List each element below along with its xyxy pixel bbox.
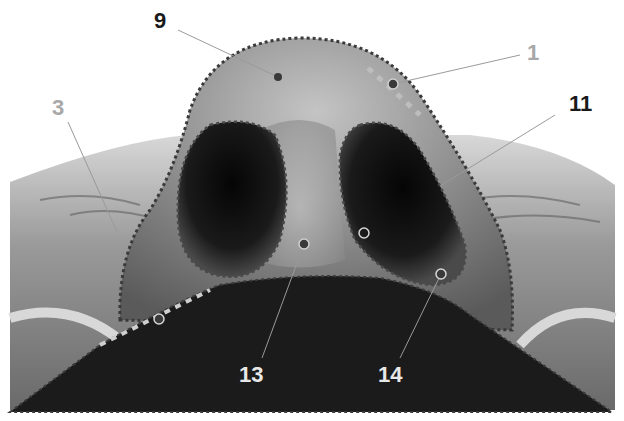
label-3: 3 — [52, 97, 64, 119]
left-nostril — [178, 122, 287, 277]
label-13: 13 — [239, 364, 263, 386]
marker-14 — [436, 269, 446, 279]
marker-13 — [299, 239, 309, 249]
label-14: 14 — [378, 364, 402, 386]
label-11: 11 — [569, 93, 592, 115]
label-9: 9 — [154, 10, 166, 32]
marker-9 — [274, 73, 282, 81]
nasal-base-illustration: 9 1 3 11 13 14 — [0, 0, 624, 421]
marker-3 — [154, 314, 164, 324]
label-1: 1 — [527, 42, 539, 64]
marker-1 — [388, 79, 398, 89]
